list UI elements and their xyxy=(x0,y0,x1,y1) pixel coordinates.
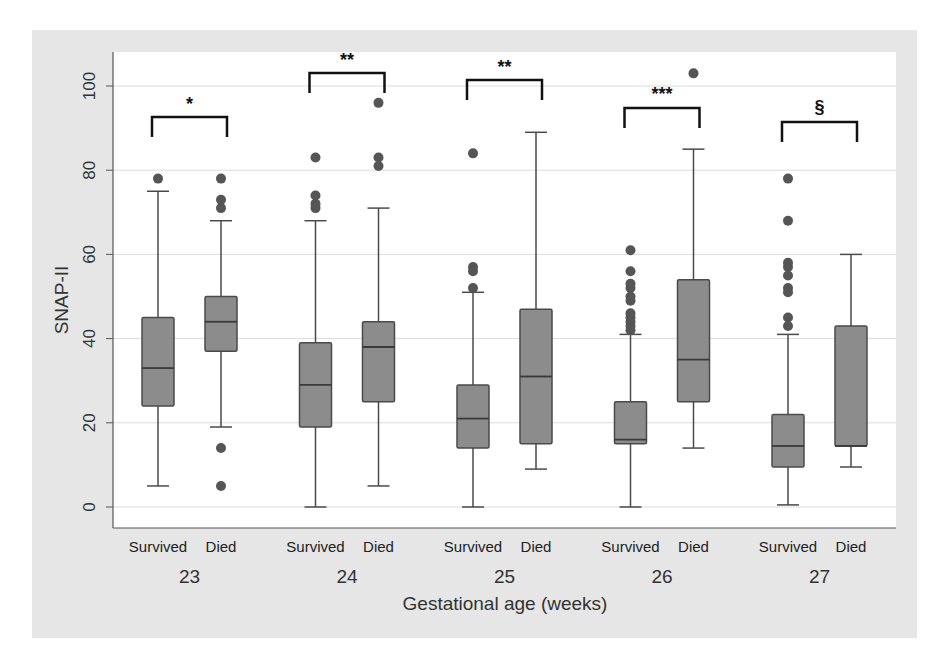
iqr-box xyxy=(678,280,710,402)
x-group-label: 27 xyxy=(809,566,830,587)
outlier-point xyxy=(468,283,478,293)
outlier-point xyxy=(374,161,384,171)
iqr-box xyxy=(205,297,237,352)
x-category-label: Died xyxy=(521,538,552,555)
x-category-label: Died xyxy=(836,538,867,555)
outlier-point xyxy=(216,174,226,184)
outlier-point xyxy=(783,321,793,331)
outlier-point xyxy=(468,266,478,276)
outlier-point xyxy=(468,148,478,158)
outlier-point xyxy=(216,481,226,491)
outlier-point xyxy=(689,68,699,78)
iqr-box xyxy=(615,402,647,444)
y-tick-label: 80 xyxy=(80,161,99,180)
x-category-label: Survived xyxy=(601,538,659,555)
x-axis-title: Gestational age (weeks) xyxy=(403,593,608,614)
x-category-label: Survived xyxy=(759,538,817,555)
outlier-point xyxy=(216,443,226,453)
outlier-point xyxy=(783,216,793,226)
iqr-box xyxy=(457,385,489,448)
significance-marker: § xyxy=(814,97,824,117)
y-tick-label: 0 xyxy=(80,502,99,511)
x-category-label: Died xyxy=(363,538,394,555)
y-tick-label: 40 xyxy=(80,329,99,348)
significance-marker: ** xyxy=(497,57,511,77)
outlier-point xyxy=(626,266,636,276)
x-group-label: 24 xyxy=(336,566,358,587)
significance-marker: *** xyxy=(651,84,672,104)
x-category-label: Survived xyxy=(286,538,344,555)
significance-marker: ** xyxy=(340,50,354,70)
outlier-point xyxy=(783,270,793,280)
iqr-box xyxy=(772,414,804,467)
x-group-label: 23 xyxy=(179,566,200,587)
y-tick-label: 20 xyxy=(80,413,99,432)
iqr-box xyxy=(363,322,395,402)
x-category-label: Died xyxy=(678,538,709,555)
outlier-point xyxy=(626,325,636,335)
y-axis: 020406080100 xyxy=(80,72,113,512)
y-axis-title: SNAP-II xyxy=(51,266,72,335)
x-group-label: 25 xyxy=(494,566,515,587)
outlier-point xyxy=(783,287,793,297)
outlier-point xyxy=(311,203,321,213)
y-tick-label: 100 xyxy=(80,72,99,100)
outlier-point xyxy=(311,153,321,163)
outlier-point xyxy=(153,174,163,184)
x-category-label: Survived xyxy=(444,538,502,555)
x-category-label: Survived xyxy=(129,538,187,555)
chart-root: 020406080100SNAP-IISurvivedDied23*Surviv… xyxy=(0,0,949,667)
outlier-point xyxy=(216,203,226,213)
outlier-point xyxy=(626,245,636,255)
outlier-point xyxy=(626,296,636,306)
x-category-label: Died xyxy=(206,538,237,555)
significance-marker: * xyxy=(186,94,193,114)
iqr-box xyxy=(835,326,867,446)
x-group-label: 26 xyxy=(651,566,672,587)
outlier-point xyxy=(374,98,384,108)
y-tick-label: 60 xyxy=(80,245,99,264)
outlier-point xyxy=(783,174,793,184)
box-plot: 020406080100SNAP-IISurvivedDied23*Surviv… xyxy=(0,0,949,667)
iqr-box xyxy=(142,318,174,406)
